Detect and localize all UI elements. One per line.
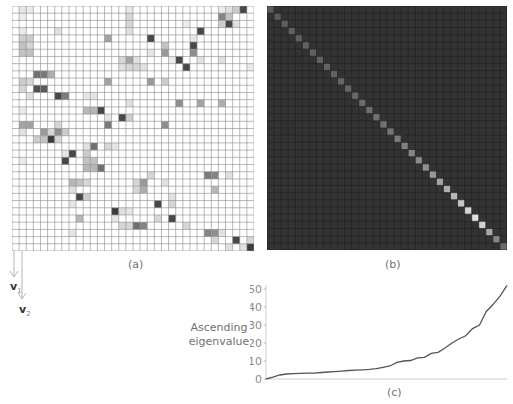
matrix-cell [126,64,133,71]
matrix-cell [83,143,90,150]
matrix-cell [126,13,133,20]
matrix-cell [126,208,133,215]
ylabel-line-1: Ascending [184,321,254,335]
matrix-cell [169,215,176,222]
matrix-cell [83,92,90,99]
matrix-cell [233,6,240,13]
matrix-cell [240,244,247,251]
matrix-cell [190,49,197,56]
matrix-cell [161,179,168,186]
matrix-cell [62,129,69,136]
matrix-cell [90,157,97,164]
matrix-cell [97,165,104,172]
diagonal-cell [267,6,274,13]
matrix-cell [33,136,40,143]
matrix-cell [83,165,90,172]
diagonal-cell [394,135,401,142]
matrix-cell [55,28,62,35]
matrix-cell [147,78,154,85]
matrix-cell [126,6,133,13]
matrix-cell [105,35,112,42]
diagonal-cell [309,49,316,56]
matrix-cell [218,100,225,107]
matrix-cell [119,64,126,71]
matrix-cell [33,85,40,92]
matrix-cell [26,42,33,49]
matrix-cell [19,13,26,20]
matrix-cell [176,56,183,63]
matrix-cell [169,193,176,200]
y-tick-label: 0 [255,373,262,386]
matrix-cell [69,150,76,157]
matrix-cell [147,172,154,179]
matrix-cell [211,186,218,193]
matrix-cell [62,150,69,157]
eigenvalue-chart: 01020304050 [250,280,513,404]
y-tick-label: 40 [250,301,262,314]
matrix-cell [197,56,204,63]
matrix-cell [83,179,90,186]
matrix-cell [19,35,26,42]
matrix-cell [55,129,62,136]
y-tick-label: 30 [250,319,262,332]
matrix-cell [226,244,233,251]
matrix-cell [126,100,133,107]
matrix-cell [133,56,140,63]
matrix-cell [83,157,90,164]
diagonal-cell [288,28,295,35]
matrix-cell [19,121,26,128]
matrix-cell [204,229,211,236]
matrix-cell [247,237,254,244]
matrix-cell [105,121,112,128]
matrix-cell [169,201,176,208]
matrix-cell [19,85,26,92]
matrix-cell [233,20,240,27]
matrix-cell [19,157,26,164]
matrix-cell [19,49,26,56]
matrix-cell [55,121,62,128]
diagonal-cell [458,200,465,207]
matrix-cell [247,64,254,71]
matrix-cell [126,222,133,229]
matrix-cell [211,172,218,179]
matrix-a [12,6,254,251]
diagonal-cell [486,228,493,235]
matrix-cell [40,71,47,78]
matrix-cell [26,92,33,99]
diagonal-cell [387,128,394,135]
matrix-cell [26,35,33,42]
matrix-cell [48,129,55,136]
matrix-cell [97,107,104,114]
matrix-cell [19,129,26,136]
diagonal-cell [472,214,479,221]
matrix-cell [105,143,112,150]
matrix-cell [190,42,197,49]
matrix-cell [140,179,147,186]
matrix-cell [218,6,225,13]
matrix-cell [247,244,254,251]
matrix-cell [161,42,168,49]
panel-label-a: (a) [128,258,143,271]
matrix-cell [211,229,218,236]
matrix-cell [119,56,126,63]
matrix-cell [211,237,218,244]
matrix-cell [218,20,225,27]
diagonal-cell [366,106,373,113]
matrix-cell [218,229,225,236]
matrix-cell [233,237,240,244]
matrix-cell [62,92,69,99]
panel-label-c: (c) [387,386,402,399]
vector-label-v1: v1 [10,280,22,295]
matrix-cell [40,136,47,143]
diagonal-cell [323,63,330,70]
matrix-cell [83,150,90,157]
matrix-cell [26,78,33,85]
diagonal-cell [436,178,443,185]
matrix-cell [105,114,112,121]
y-tick-label: 10 [250,355,262,368]
diagonal-cell [429,171,436,178]
matrix-cell [119,208,126,215]
matrix-cell [197,100,204,107]
diagonal-cell [401,142,408,149]
diagonal-cell [331,71,338,78]
